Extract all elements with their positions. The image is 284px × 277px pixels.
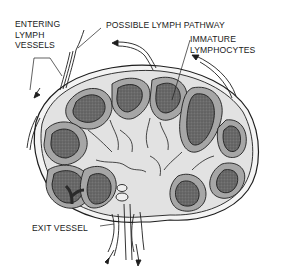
label-possible-lymph-pathway: POSSIBLE LYMPH PATHWAY: [106, 20, 225, 31]
label-entering-lymph-vessels: ENTERING LYMPH VESSELS: [15, 19, 60, 51]
label-exit-vessel: EXIT VESSEL: [32, 223, 88, 234]
label-immature-lymphocytes: IMMATURE LYMPHOCYTES: [190, 34, 255, 55]
